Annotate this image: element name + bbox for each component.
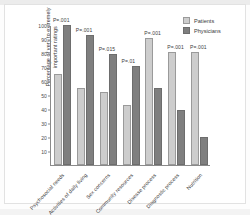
y-tick-label: 50 [41, 93, 47, 99]
bar-group: P=.001 [168, 26, 185, 165]
p-value-annotation: P=.001 [53, 17, 70, 23]
bar-group: P=.001 [191, 26, 208, 165]
y-tick-mark [48, 96, 50, 97]
bar-group: P=.001 [145, 26, 162, 165]
bar-patients[interactable] [191, 52, 199, 165]
p-value-annotation: P=.001 [76, 27, 93, 33]
y-tick-label: 80 [41, 51, 47, 57]
bar-patients[interactable] [54, 74, 62, 165]
p-value-annotation: P=.01 [122, 58, 136, 64]
chart-legend: Patients Physicians [183, 17, 221, 37]
legend-label-physicians: Physicians [194, 28, 221, 34]
bar-group: P=.01 [123, 26, 140, 165]
y-tick-mark [48, 26, 50, 27]
legend-label-patients: Patients [194, 18, 214, 24]
bar-patients[interactable] [168, 52, 176, 165]
y-tick-mark [48, 124, 50, 125]
y-axis-line [50, 26, 51, 166]
y-tick-label: 60 [41, 79, 47, 85]
legend-item-physicians[interactable]: Physicians [183, 27, 221, 34]
y-tick-label: 30 [41, 121, 47, 127]
y-tick-mark [48, 138, 50, 139]
bar-physicians[interactable] [132, 66, 140, 165]
y-tick-label: 20 [41, 135, 47, 141]
y-tick-label: 70 [41, 65, 47, 71]
y-tick-mark [48, 68, 50, 69]
p-value-annotation: P=.001 [144, 30, 161, 36]
bar-physicians[interactable] [177, 110, 185, 165]
figure-chart-container: Percentage of very to extremely importan… [0, 0, 250, 215]
bar-physicians[interactable] [86, 35, 94, 165]
legend-item-patients[interactable]: Patients [183, 17, 221, 24]
legend-swatch-physicians-icon [183, 27, 190, 34]
p-value-annotation: P=.015 [99, 46, 116, 52]
y-tick-mark [48, 54, 50, 55]
plot-area: 100908070605040302010 P=.001P=.001P=.015… [50, 26, 210, 166]
p-value-annotation: P=.001 [167, 44, 184, 50]
y-tick-label: 90 [41, 37, 47, 43]
bar-physicians[interactable] [109, 54, 117, 165]
bar-patients[interactable] [145, 38, 153, 165]
y-tick-label: 100 [38, 23, 47, 29]
bar-group: P=.001 [54, 26, 71, 165]
bar-patients[interactable] [77, 88, 85, 165]
y-tick-mark [48, 110, 50, 111]
bar-group: P=.001 [77, 26, 94, 165]
x-axis-line [50, 165, 210, 166]
y-tick-label: 40 [41, 107, 47, 113]
bar-physicians[interactable] [154, 88, 162, 165]
y-tick-label: 10 [41, 149, 47, 155]
bar-physicians[interactable] [200, 137, 208, 165]
y-tick-mark [48, 152, 50, 153]
bar-physicians[interactable] [63, 25, 71, 165]
legend-swatch-patients-icon [183, 17, 190, 24]
y-tick-mark [48, 40, 50, 41]
bar-patients[interactable] [123, 105, 131, 165]
y-tick-mark [48, 82, 50, 83]
p-value-annotation: P=.001 [190, 44, 207, 50]
bar-patients[interactable] [100, 92, 108, 165]
bar-group: P=.015 [100, 26, 117, 165]
